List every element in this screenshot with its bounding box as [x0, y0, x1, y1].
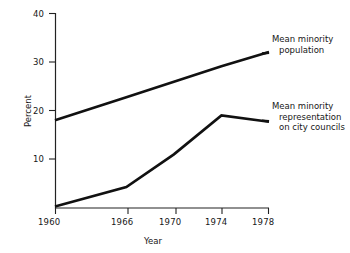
annotation-mean-minority-representation: Mean minority representation on city cou…	[272, 101, 345, 133]
x-tick-label-1960: 1960	[38, 217, 60, 227]
leader-dash-population	[262, 53, 269, 54]
y-tick-label-40: 40	[33, 9, 44, 19]
annotation-representation-line1: Mean minority	[272, 101, 333, 111]
annotation-population-line1: Mean minority	[272, 34, 333, 44]
chart-figure: 40 30 20 10 1960 1966 1970 1974 1978 Per…	[0, 0, 350, 253]
leader-dash-representation	[262, 121, 269, 122]
y-tick-label-10: 10	[33, 154, 44, 164]
x-tick-label-1966: 1966	[111, 217, 133, 227]
series-line-mean-minority-population	[55, 52, 269, 120]
annotation-population-line2: population	[272, 45, 333, 56]
y-tick-label-30: 30	[33, 57, 44, 67]
annotation-mean-minority-population: Mean minority population	[272, 34, 333, 55]
annotation-representation-line2: representation	[272, 112, 345, 123]
x-axis-title: Year	[144, 236, 162, 246]
x-tick-label-1974: 1974	[205, 217, 227, 227]
y-tick-label-20: 20	[33, 106, 44, 116]
x-tick-label-1978: 1978	[252, 217, 274, 227]
series-line-mean-minority-representation	[55, 115, 269, 206]
y-axis-title: Percent	[23, 83, 33, 139]
annotation-representation-line3: on city councils	[272, 122, 345, 133]
x-tick-label-1970: 1970	[159, 217, 181, 227]
